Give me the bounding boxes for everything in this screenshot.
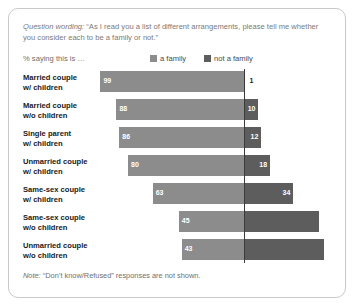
legend-item-a-family: a family (150, 53, 186, 65)
bar-segment-a-family: 80 (128, 155, 244, 176)
bar-value-a-family: 86 (122, 132, 130, 141)
row-label-line2: w/ children (23, 83, 95, 93)
bar-segment-not-a-family: 18 (244, 155, 270, 176)
row-label-line1: Same-sex couple (23, 185, 95, 195)
bar-value-not-a-family: 10 (248, 104, 256, 113)
bar-value-a-family: 45 (182, 216, 190, 225)
row-label-line2: w/o children (23, 223, 95, 233)
bar-value-not-a-family: 18 (259, 160, 267, 169)
axis-divider-line (244, 69, 245, 263)
row-label-line2: w/o children (23, 251, 95, 261)
stacked-bar: 8612 (119, 127, 261, 148)
legend: % saying this is … a family not a family (23, 53, 333, 65)
legend-swatch-family (150, 55, 157, 62)
row-label-line2: w/ children (23, 167, 95, 177)
row-label: Married couplew/ children (23, 73, 95, 92)
row-label: Unmarried couplew/ children (23, 157, 95, 176)
bar-segment-a-family: 99 (100, 71, 244, 92)
row-label: Unmarried couplew/o children (23, 241, 95, 260)
row-label-line1: Married couple (23, 73, 95, 83)
bar-segment-not-a-family: 10 (244, 99, 259, 120)
legend-swatch-not-family (204, 55, 211, 62)
chart-card: Question wording: “As I read you a list … (8, 8, 346, 298)
bar-value-a-family: 43 (185, 244, 193, 253)
row-label: Same-sex couplew/ children (23, 185, 95, 204)
question-wording-label: Question wording: (23, 22, 84, 31)
row-label-line2: w/o children (23, 111, 95, 121)
row-label-line1: Married couple (23, 101, 95, 111)
row-label-line1: Unmarried couple (23, 241, 95, 251)
bar-segment-a-family: 43 (182, 239, 244, 260)
bar-chart-plot: Married couplew/ children991Married coup… (9, 69, 347, 265)
row-label: Single parentw/ children (23, 129, 95, 148)
bar-segment-a-family: 63 (153, 183, 244, 204)
question-wording: Question wording: “As I read you a list … (23, 21, 323, 43)
bar-value-a-family: 80 (131, 160, 139, 169)
bar-value-a-family: 99 (103, 76, 111, 85)
bar-value-not-a-family: 34 (282, 188, 290, 197)
bar-value-not-a-family: 12 (251, 132, 259, 141)
bar-segment-a-family: 88 (116, 99, 244, 120)
legend-label-not-a-family: not a family (214, 54, 253, 63)
row-label-line2: w/ children (23, 195, 95, 205)
row-label: Same-sex couplew/o children (23, 213, 95, 232)
bar-segment-not-a-family: 12 (244, 127, 261, 148)
legend-label-a-family: a family (160, 54, 186, 63)
row-label-line1: Same-sex couple (23, 213, 95, 223)
stacked-bar: 991 (100, 71, 245, 92)
bar-value-a-family: 88 (119, 104, 127, 113)
row-label-line1: Single parent (23, 129, 95, 139)
bar-segment-not-a-family (244, 239, 324, 260)
row-label-line1: Unmarried couple (23, 157, 95, 167)
note-text: “Don’t know/Refused” responses are not s… (41, 271, 201, 280)
stacked-bar: 45 (179, 211, 320, 232)
stacked-bar: 8018 (128, 155, 270, 176)
bar-segment-a-family: 45 (179, 211, 244, 232)
bar-segment-a-family: 86 (119, 127, 244, 148)
bar-value-not-a-family: 1 (249, 76, 253, 85)
stacked-bar: 8810 (116, 99, 258, 120)
bar-segment-not-a-family (244, 211, 319, 232)
bar-value-a-family: 63 (156, 188, 164, 197)
stacked-bar: 43 (182, 239, 324, 260)
chart-note: Note: “Don’t know/Refused” responses are… (23, 271, 200, 280)
bar-segment-not-a-family: 34 (244, 183, 293, 204)
saying-label: % saying this is … (23, 53, 85, 65)
row-label: Married couplew/o children (23, 101, 95, 120)
stacked-bar: 6334 (153, 183, 294, 204)
legend-item-not-a-family: not a family (204, 53, 253, 65)
row-label-line2: w/ children (23, 139, 95, 149)
note-label: Note: (23, 271, 41, 280)
